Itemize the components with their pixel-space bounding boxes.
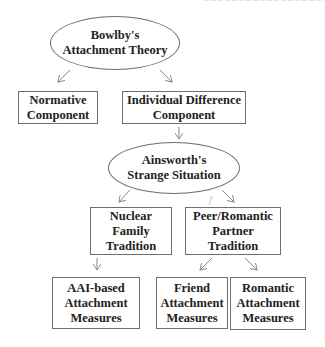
node-label: Nuclear Family Tradition: [106, 209, 156, 254]
node-label: Ainsworth's Strange Situation: [127, 153, 220, 183]
arrow-peer-to-friend: [200, 258, 212, 270]
node-bowlby-attachment-theory: Bowlby's Attachment Theory: [50, 16, 180, 70]
node-label: Individual Difference Component: [127, 93, 241, 123]
node-label: Romantic Attachment Measures: [236, 281, 299, 326]
node-aai-based-attachment-measures: AAI-based Attachment Measures: [52, 277, 140, 329]
node-label: Normative Component: [27, 93, 90, 123]
node-peer-romantic-partner-tradition: Peer/Romantic Partner Tradition: [185, 207, 281, 255]
node-label: Bowlby's Attachment Theory: [63, 28, 168, 58]
node-friend-attachment-measures: Friend Attachment Measures: [156, 277, 228, 329]
node-individual-difference-component: Individual Difference Component: [122, 91, 246, 124]
attachment-theory-diagram: Bowlby's Attachment Theory Normative Com…: [0, 0, 325, 347]
node-romantic-attachment-measures: Romantic Attachment Measures: [230, 277, 306, 330]
arrow-bowlby-to-normative: [58, 70, 70, 82]
arrow-ainsworth-to-peer: [222, 190, 234, 202]
node-normative-component: Normative Component: [18, 91, 98, 124]
arrow-ainsworth-to-nuclear: [119, 190, 130, 202]
node-nuclear-family-tradition: Nuclear Family Tradition: [90, 207, 172, 255]
node-label: Friend Attachment Measures: [160, 281, 223, 326]
arrow-bowlby-to-individual: [160, 70, 172, 82]
arrow-peer-to-romantic: [245, 258, 257, 270]
node-label: Peer/Romantic Partner Tradition: [193, 209, 273, 254]
node-ainsworth-strange-situation: Ainsworth's Strange Situation: [108, 142, 240, 194]
uncertain-faint-mark: [209, 196, 212, 205]
node-label: AAI-based Attachment Measures: [64, 281, 127, 326]
